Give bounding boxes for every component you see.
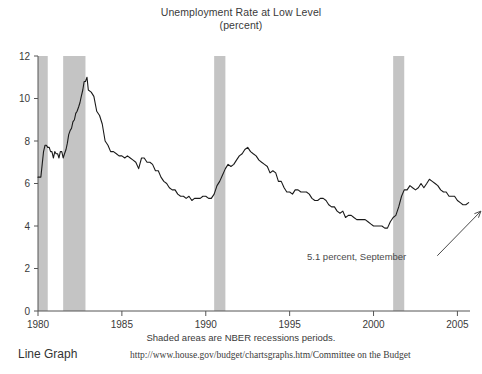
chart-plot-area: 024681012 198019851990199520002005 [0, 0, 482, 374]
recession-band [393, 56, 404, 311]
annotation-arrow [437, 211, 481, 256]
x-axis-ticks: 198019851990199520002005 [27, 311, 469, 330]
x-axis-tick-label: 1990 [195, 319, 218, 330]
y-axis-tick-label: 0 [24, 306, 30, 317]
chart-caption: Shaded areas are NBER recessions periods… [0, 332, 482, 343]
recession-band [214, 56, 225, 311]
source-url-label: http://www.house.gov/budget/chartsgraphs… [130, 350, 470, 360]
y-axis-tick-label: 8 [24, 136, 30, 147]
chart-container: Unemployment Rate at Low Level (percent)… [0, 0, 482, 374]
y-axis-tick-label: 12 [19, 51, 31, 62]
annotation-arrow-line [437, 211, 481, 256]
x-axis-tick-label: 1995 [279, 319, 302, 330]
y-axis-tick-label: 10 [19, 93, 31, 104]
x-axis-tick-label: 1985 [111, 319, 134, 330]
annotation-label: 5.1 percent, September [307, 251, 406, 262]
x-axis-tick-label: 1980 [27, 319, 50, 330]
y-axis-tick-label: 6 [24, 178, 30, 189]
x-axis-tick-label: 2000 [362, 319, 385, 330]
recession-band [38, 56, 48, 311]
y-axis-tick-label: 2 [24, 263, 30, 274]
graph-type-label: Line Graph [18, 347, 77, 361]
y-axis-ticks: 024681012 [19, 51, 38, 317]
chart-axes [38, 56, 470, 311]
x-axis-tick-label: 2005 [446, 319, 469, 330]
y-axis-tick-label: 4 [24, 221, 30, 232]
